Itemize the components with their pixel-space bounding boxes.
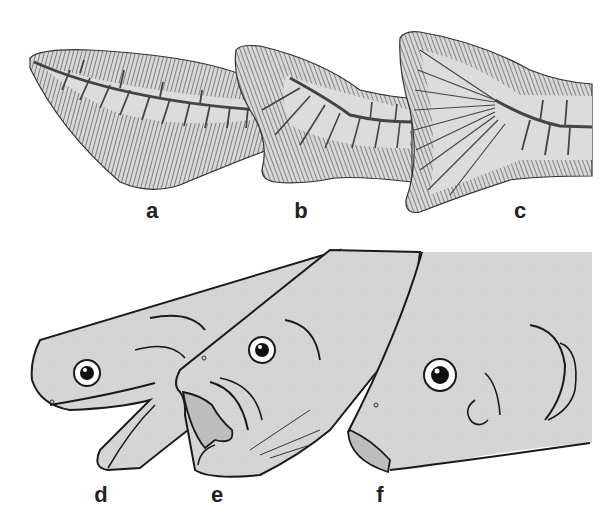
label-head-d: d bbox=[94, 484, 107, 506]
label-tail-a: a bbox=[146, 200, 158, 222]
label-tail-c: c bbox=[514, 200, 526, 222]
tail-fin-a bbox=[30, 50, 268, 190]
label-tail-b: b bbox=[294, 200, 307, 222]
fish-evolution-figure bbox=[0, 0, 612, 516]
label-head-f: f bbox=[376, 484, 383, 506]
tail-fin-b bbox=[235, 46, 412, 183]
tail-fin-c bbox=[400, 32, 592, 213]
label-head-e: e bbox=[211, 484, 223, 506]
